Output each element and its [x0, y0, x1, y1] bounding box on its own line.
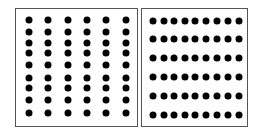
dot: [65, 29, 72, 36]
dot: [225, 93, 232, 100]
dot: [203, 112, 210, 119]
dot: [203, 18, 210, 25]
dot: [192, 93, 199, 100]
dot: [225, 55, 232, 62]
right-panel: [141, 8, 248, 127]
dot: [150, 93, 157, 100]
dot: [150, 36, 157, 43]
dot: [192, 18, 199, 25]
dot: [171, 36, 178, 43]
dot: [65, 97, 72, 104]
dot: [26, 85, 33, 92]
dot: [123, 85, 130, 92]
dot: [26, 17, 33, 24]
dot: [203, 93, 210, 100]
dot: [84, 40, 91, 47]
dot: [65, 40, 72, 47]
left-panel: [15, 8, 138, 127]
dot: [123, 75, 130, 82]
dot: [84, 85, 91, 92]
dot: [161, 112, 168, 119]
dot: [171, 18, 178, 25]
dot: [123, 97, 130, 104]
dot: [45, 50, 52, 57]
dot: [103, 85, 110, 92]
dot: [84, 29, 91, 36]
dot: [65, 17, 72, 24]
dot: [150, 18, 157, 25]
dot: [84, 97, 91, 104]
dot: [26, 29, 33, 36]
dot: [84, 110, 91, 117]
dot: [171, 112, 178, 119]
dot: [123, 50, 130, 57]
dot: [182, 55, 189, 62]
dot: [171, 93, 178, 100]
dot: [123, 17, 130, 24]
dot: [161, 93, 168, 100]
dot: [236, 74, 243, 81]
dot: [26, 75, 33, 82]
dot: [65, 110, 72, 117]
dot: [214, 74, 221, 81]
dot: [192, 36, 199, 43]
dot: [26, 40, 33, 47]
dot: [236, 93, 243, 100]
dot: [65, 85, 72, 92]
dot: [214, 93, 221, 100]
dot: [225, 112, 232, 119]
dot: [45, 17, 52, 24]
dot: [123, 110, 130, 117]
dot: [203, 74, 210, 81]
dot: [182, 36, 189, 43]
dot: [203, 55, 210, 62]
dot: [65, 62, 72, 69]
dot: [103, 97, 110, 104]
dot: [214, 55, 221, 62]
dot: [236, 18, 243, 25]
dot: [192, 74, 199, 81]
dot: [214, 36, 221, 43]
dot: [182, 74, 189, 81]
dot: [214, 18, 221, 25]
dot: [161, 74, 168, 81]
dot: [161, 18, 168, 25]
dot: [192, 112, 199, 119]
dot: [161, 55, 168, 62]
dot: [123, 62, 130, 69]
dot: [45, 75, 52, 82]
dot: [103, 50, 110, 57]
dot: [171, 55, 178, 62]
dot: [84, 50, 91, 57]
dot: [123, 40, 130, 47]
dot: [182, 93, 189, 100]
dot: [84, 75, 91, 82]
dot: [26, 50, 33, 57]
dot: [171, 74, 178, 81]
dot: [225, 74, 232, 81]
dot: [150, 112, 157, 119]
dot: [45, 85, 52, 92]
dot: [103, 62, 110, 69]
dot: [150, 55, 157, 62]
dot: [65, 50, 72, 57]
dot: [103, 29, 110, 36]
dot: [45, 110, 52, 117]
dot: [236, 112, 243, 119]
dot: [103, 110, 110, 117]
dot: [161, 36, 168, 43]
dot: [123, 29, 130, 36]
dot: [45, 29, 52, 36]
dot: [225, 36, 232, 43]
dot: [236, 36, 243, 43]
dot: [45, 40, 52, 47]
dot: [26, 110, 33, 117]
dot: [192, 55, 199, 62]
dot: [150, 74, 157, 81]
dot: [103, 75, 110, 82]
dot: [103, 17, 110, 24]
dot: [214, 112, 221, 119]
dot: [84, 62, 91, 69]
dot: [26, 62, 33, 69]
dot: [225, 18, 232, 25]
